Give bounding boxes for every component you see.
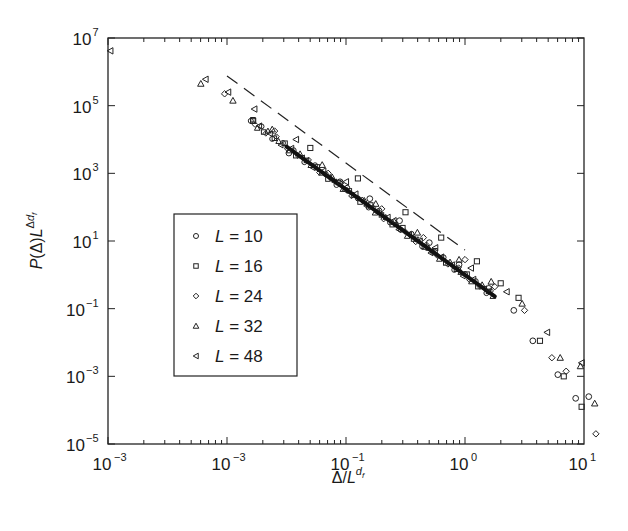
svg-text:−3: −3 <box>233 451 246 463</box>
svg-text:0: 0 <box>471 451 477 463</box>
y-tick-label: 107 <box>73 26 99 49</box>
x-tick-label: 100 <box>450 451 478 474</box>
svg-text:−1: −1 <box>352 451 365 463</box>
svg-text:P(Δ)LΔdf: P(Δ)LΔdf <box>24 212 45 269</box>
y-tick-labels: 10710510310110−110−310−5 <box>66 26 99 455</box>
series-l10 <box>286 150 592 401</box>
y-tick-label: 101 <box>73 229 99 252</box>
svg-text:10: 10 <box>450 455 469 474</box>
svg-text:10: 10 <box>73 233 92 252</box>
svg-text:10: 10 <box>66 368 85 387</box>
svg-text:L = 48: L = 48 <box>215 347 263 366</box>
svg-text:Δ/Ldf: Δ/Ldf <box>332 465 365 486</box>
y-tick-label: 10−3 <box>66 364 98 387</box>
svg-text:−1: −1 <box>86 297 99 309</box>
svg-text:5: 5 <box>93 94 99 106</box>
svg-text:10: 10 <box>66 301 85 320</box>
svg-text:10: 10 <box>93 455 112 474</box>
svg-text:7: 7 <box>93 26 99 38</box>
svg-text:10: 10 <box>73 98 92 117</box>
svg-text:L = 32: L = 32 <box>215 317 263 336</box>
svg-text:10: 10 <box>569 455 588 474</box>
scatter-plot: 10−310−310−1100101 10710510310110−110−31… <box>0 0 628 531</box>
svg-text:10: 10 <box>73 165 92 184</box>
svg-text:10: 10 <box>212 455 231 474</box>
y-tick-label: 103 <box>73 161 99 184</box>
svg-text:10: 10 <box>73 30 92 49</box>
svg-text:L = 24: L = 24 <box>215 287 263 306</box>
svg-text:10: 10 <box>66 436 85 455</box>
y-tick-label: 105 <box>73 94 99 117</box>
x-axis-title: Δ/Ldf <box>332 465 365 486</box>
x-tick-label: 101 <box>569 451 597 474</box>
svg-text:L = 10: L = 10 <box>215 227 263 246</box>
svg-text:3: 3 <box>93 161 99 173</box>
series-l16 <box>251 118 585 409</box>
y-axis-title: P(Δ)LΔdf <box>24 212 45 269</box>
x-tick-label: 10−3 <box>212 451 246 474</box>
legend: L = 10L = 16L = 24L = 32L = 48 <box>174 214 297 376</box>
y-tick-label: 10−1 <box>66 297 98 320</box>
svg-text:1: 1 <box>93 229 99 241</box>
x-tick-label: 10−3 <box>93 451 127 474</box>
svg-text:−3: −3 <box>86 364 99 376</box>
svg-text:−5: −5 <box>86 432 99 444</box>
svg-text:1: 1 <box>590 451 596 463</box>
svg-text:−3: −3 <box>114 451 127 463</box>
y-tick-label: 10−5 <box>66 432 98 455</box>
svg-text:L = 16: L = 16 <box>215 257 263 276</box>
